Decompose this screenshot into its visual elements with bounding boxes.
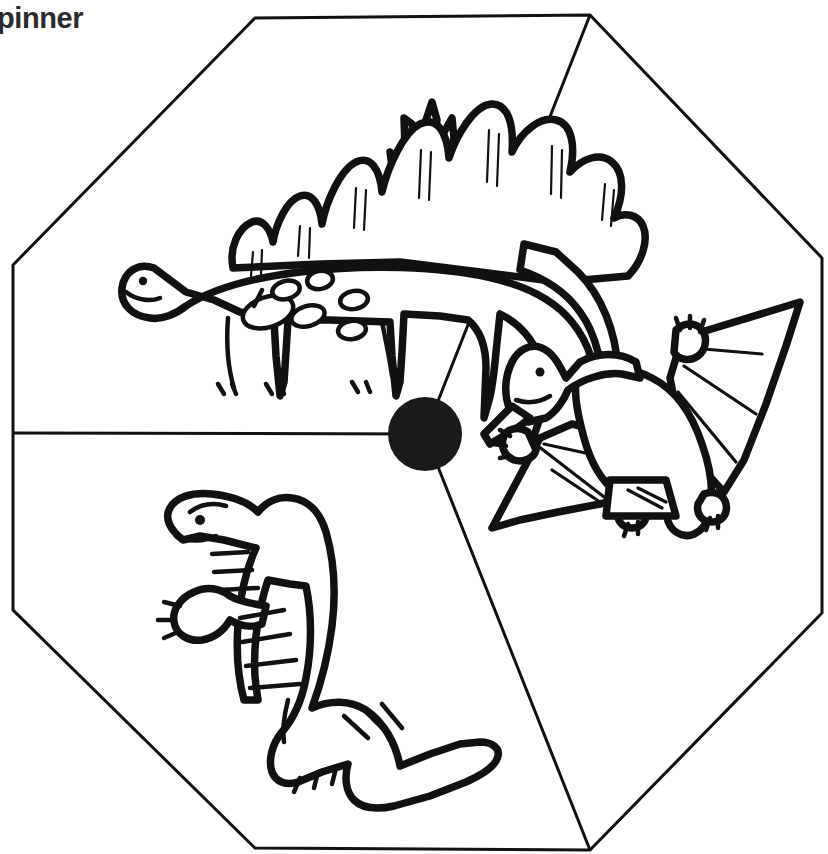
tyrannosaurus-eye xyxy=(195,515,205,525)
stegosaurus-eye xyxy=(139,277,147,285)
divider-left xyxy=(13,433,425,434)
spinner-stage xyxy=(0,0,828,854)
pterodactyl-eye xyxy=(536,368,545,377)
spinner-svg xyxy=(0,0,828,854)
spinner-hub[interactable] xyxy=(388,397,462,471)
